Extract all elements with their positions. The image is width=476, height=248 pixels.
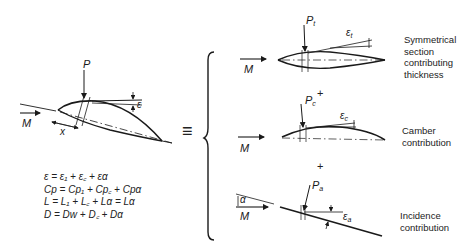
equation-drag: D = Dw + D꜀ + Dα <box>44 209 141 222</box>
equation-cp: Cp = Cp₁ + Cp꜀ + Cpα <box>44 184 141 197</box>
force-label-p: P <box>83 59 90 70</box>
incidence-angle-label: α <box>240 195 246 205</box>
flow-label-m: M <box>22 118 31 129</box>
plus-sign-2: + <box>317 160 323 172</box>
main-airfoil <box>20 70 172 143</box>
equation-lift: L = L₁ + L꜀ + Lα = Lα <box>44 196 141 209</box>
caption-camber: Camber contribution <box>402 125 451 148</box>
curly-brace <box>204 52 214 240</box>
flat-plate-incidence <box>236 185 382 236</box>
force-label-pt: Pt <box>306 15 315 27</box>
angle-label-ea: εa <box>343 212 351 223</box>
symmetric-airfoil <box>240 25 385 72</box>
equation-epsilon: ε = ε₁ + ε꜀ + εα <box>44 171 141 184</box>
angle-label-et: εt <box>346 28 352 39</box>
flow-label-m-2: M <box>240 143 249 154</box>
equation-list: ε = ε₁ + ε꜀ + εα Cp = Cp₁ + Cp꜀ + Cpα L … <box>44 171 141 221</box>
plus-sign-1: + <box>317 87 323 99</box>
force-label-pa: Pa <box>312 180 323 192</box>
force-label-pc: Pc <box>305 95 316 107</box>
flow-label-m-3: M <box>240 211 249 222</box>
position-label-x: x <box>60 127 65 137</box>
equivalence-symbol: ≡ <box>182 122 193 140</box>
caption-symmetrical: Symmetrical section contributing thickne… <box>404 34 456 80</box>
angle-label-epsilon: ε <box>137 100 141 110</box>
flow-label-m-1: M <box>244 64 253 75</box>
camber-line-airfoil <box>238 104 385 142</box>
caption-incidence: Incidence contribution <box>400 210 449 233</box>
angle-label-ec: εc <box>340 111 348 122</box>
